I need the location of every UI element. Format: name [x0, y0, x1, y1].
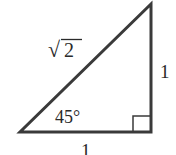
angle-label: 45° [55, 107, 80, 127]
right-angle-marker [133, 116, 151, 132]
vertical-leg-label: 1 [160, 61, 170, 82]
hypotenuse-value: 2 [64, 39, 74, 61]
hypotenuse-label: √ 2 [48, 37, 82, 62]
right-triangle-diagram: √ 2 1 45° 1 [0, 0, 176, 155]
triangle-outline [20, 4, 151, 132]
radical-sign: √ [48, 37, 61, 62]
horizontal-leg-label: 1 [81, 140, 91, 155]
